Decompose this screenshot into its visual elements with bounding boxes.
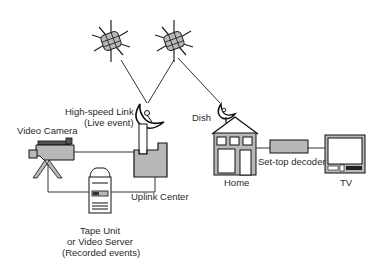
satellite-icon (155, 20, 193, 62)
uplink-label-line1: High-speed Link (65, 106, 134, 117)
tv-label: TV (340, 177, 352, 188)
home-label: Home (224, 177, 249, 188)
tape-unit-label-line3: (Recorded events) (62, 247, 138, 258)
uplink-center-label: Uplink Center (131, 191, 189, 202)
video-camera-label: Video Camera (17, 125, 78, 136)
satellite-links (121, 58, 220, 103)
set-top-decoder-label: Set-top decoder (258, 156, 326, 167)
tape-unit-label-line2: or Video Server (62, 236, 138, 247)
tape-unit-label: Tape Unit or Video Server (Recorded even… (62, 225, 138, 258)
set-top-decoder-icon (270, 140, 308, 153)
satellite-icon (92, 20, 130, 62)
tape-unit-label-line1: Tape Unit (62, 225, 138, 236)
home-dish-label: Dish (192, 112, 211, 123)
video-camera-icon (29, 138, 74, 178)
home-dish-icon (218, 104, 235, 123)
home-icon (212, 117, 258, 175)
tv-icon (325, 135, 365, 173)
tape-unit-icon (89, 168, 111, 213)
